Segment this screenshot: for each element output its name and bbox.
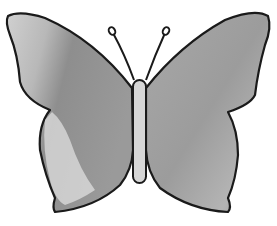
butterfly-body: [133, 80, 146, 183]
right-wing: [146, 13, 269, 212]
butterfly-illustration: [0, 0, 277, 226]
butterfly-icon: [0, 0, 277, 226]
